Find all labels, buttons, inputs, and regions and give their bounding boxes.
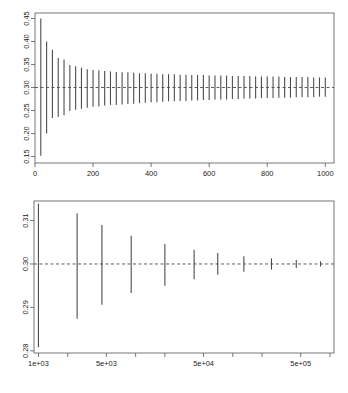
x-axis-tick-label: 1000 <box>317 169 333 178</box>
chart-panel-bottom: 0.280.290.300.311e+035e+035e+045e+05 <box>0 196 348 393</box>
chart-panel-top: 0.150.200.250.300.350.400.45020040060080… <box>0 0 348 196</box>
x-axis-tick-label: 5e+04 <box>193 359 214 368</box>
bottom-panel-plot: 0.280.290.300.311e+035e+035e+045e+05 <box>0 196 348 393</box>
x-axis-tick-label: 1e+03 <box>28 359 49 368</box>
y-axis-tick-label: 0.20 <box>23 126 32 140</box>
x-axis-tick-label: 200 <box>87 169 99 178</box>
y-axis-tick-label: 0.25 <box>23 103 32 117</box>
y-axis-tick-label: 0.31 <box>21 213 30 227</box>
interval-series <box>41 19 325 156</box>
figure-container: 0.150.200.250.300.350.400.45020040060080… <box>0 0 348 393</box>
y-axis-tick-label: 0.45 <box>23 11 32 25</box>
y-axis-tick-label: 0.35 <box>23 57 32 71</box>
x-axis-tick-label: 600 <box>203 169 215 178</box>
x-axis-tick-label: 5e+05 <box>290 359 311 368</box>
y-axis-tick-label: 0.40 <box>23 34 32 48</box>
y-axis-tick-label: 0.28 <box>22 344 31 358</box>
plot-box <box>34 201 334 353</box>
x-axis-tick-label: 5e+03 <box>96 359 117 368</box>
y-axis-tick-label: 0.29 <box>22 300 31 314</box>
x-axis-tick-label: 0 <box>33 169 37 178</box>
y-axis-tick-label: 0.15 <box>23 149 32 163</box>
x-axis-tick-label: 800 <box>261 169 273 178</box>
y-axis-tick-label: 0.30 <box>23 80 32 94</box>
interval-series <box>38 204 320 348</box>
top-panel-plot: 0.150.200.250.300.350.400.45020040060080… <box>0 0 348 196</box>
x-axis-tick-label: 400 <box>145 169 157 178</box>
y-axis-tick-label: 0.30 <box>22 257 31 271</box>
plot-box <box>35 13 334 163</box>
